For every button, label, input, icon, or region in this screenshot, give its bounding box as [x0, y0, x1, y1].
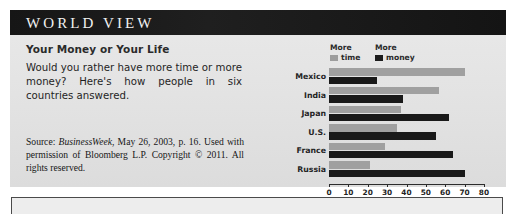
legend-money-line1: More — [375, 43, 415, 52]
panel-title: WORLD VIEW — [26, 14, 155, 32]
x-axis-tick-label: 20 — [363, 188, 373, 197]
chart-category-label: Japan — [258, 109, 326, 118]
chart-row: U.S. — [258, 123, 498, 142]
chart-bar — [329, 68, 465, 75]
legend-money-line2: money — [386, 53, 415, 62]
x-axis-tick-label: 0 — [326, 188, 331, 197]
chart-bar-group — [329, 68, 498, 85]
chart-row: Japan — [258, 104, 498, 123]
chart-row: Russia — [258, 160, 498, 179]
x-axis-tick-label: 30 — [382, 188, 392, 197]
x-axis-tick — [465, 184, 466, 187]
chart-bar — [329, 124, 397, 131]
chart-category-label: India — [258, 91, 326, 100]
x-axis-tick-label: 70 — [459, 188, 469, 197]
chart-bar-group — [329, 124, 498, 141]
panel-subheading: Your Money or Your Life — [26, 43, 251, 55]
chart-category-label: Mexico — [258, 72, 326, 81]
legend-swatch-more-money — [375, 55, 383, 61]
x-axis-tick — [407, 184, 408, 187]
legend-item-more-time: More time — [330, 43, 360, 62]
chart-category-label: France — [258, 146, 326, 155]
world-view-panel: WORLD VIEW Your Money or Your Life Would… — [10, 10, 506, 187]
legend-swatch-more-time — [330, 55, 338, 61]
bar-chart: More time More money MexicoIndiaJapanU.S… — [258, 43, 498, 183]
x-axis-tick-label: 80 — [479, 188, 489, 197]
chart-bar — [329, 170, 465, 177]
bottom-content-box — [11, 197, 503, 214]
chart-bar — [329, 161, 370, 168]
x-axis-tick — [445, 184, 446, 187]
chart-bar — [329, 87, 439, 94]
chart-bar-group — [329, 161, 498, 178]
x-axis-tick — [484, 184, 485, 187]
panel-text-column: Your Money or Your Life Would you rather… — [26, 43, 251, 103]
chart-bar — [329, 77, 377, 84]
panel-title-bar: WORLD VIEW — [10, 10, 506, 35]
chart-row: France — [258, 141, 498, 160]
source-publication: BusinessWeek — [59, 136, 112, 147]
x-axis-tick — [426, 184, 427, 187]
x-axis-tick-label: 40 — [401, 188, 411, 197]
chart-bar-group — [329, 87, 498, 104]
chart-bar — [329, 132, 436, 139]
chart-plot-area: MexicoIndiaJapanU.S.FranceRussia — [258, 67, 498, 183]
x-axis-tick — [329, 184, 330, 187]
chart-category-label: U.S. — [258, 128, 326, 137]
chart-bar-group — [329, 142, 498, 159]
legend-time-line2: time — [341, 53, 360, 62]
chart-category-label: Russia — [258, 165, 326, 174]
x-axis-tick — [368, 184, 369, 187]
chart-row: India — [258, 86, 498, 105]
x-axis-tick-label: 50 — [421, 188, 431, 197]
source-prefix: Source: — [26, 136, 59, 147]
chart-bar-group — [329, 105, 498, 122]
chart-row: Mexico — [258, 67, 498, 86]
chart-bar — [329, 143, 385, 150]
chart-bar — [329, 95, 403, 102]
x-axis-tick-label: 60 — [440, 188, 450, 197]
x-axis-tick-label: 10 — [343, 188, 353, 197]
x-axis-tick — [387, 184, 388, 187]
legend-item-more-money: More money — [375, 43, 415, 62]
chart-bar — [329, 106, 401, 113]
chart-bar — [329, 114, 449, 121]
legend-time-line1: More — [330, 43, 360, 52]
x-axis-tick — [348, 184, 349, 187]
chart-bar — [329, 151, 453, 158]
panel-description: Would you rather have more time or more … — [26, 61, 242, 103]
source-note: Source: BusinessWeek, May 26, 2003, p. 1… — [26, 135, 244, 175]
